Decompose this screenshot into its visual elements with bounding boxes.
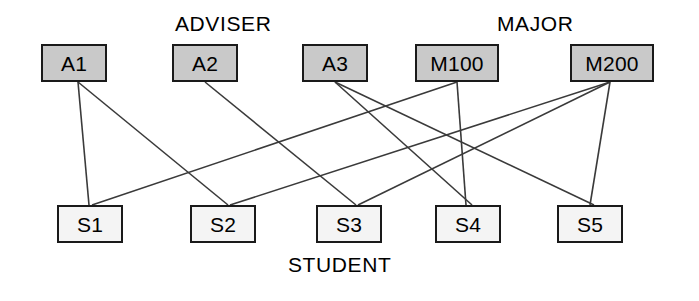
node-label: S2 <box>210 214 236 235</box>
group-label-student: STUDENT <box>288 253 391 277</box>
adviser-node-a3[interactable]: A3 <box>302 44 368 82</box>
node-label: A3 <box>322 53 348 74</box>
edge-a1-s1 <box>78 82 89 205</box>
node-label: M100 <box>430 53 483 74</box>
student-node-s2[interactable]: S2 <box>190 205 256 243</box>
node-label: S4 <box>455 214 481 235</box>
group-label-major: MAJOR <box>497 12 574 36</box>
major-node-m100[interactable]: M100 <box>415 44 499 82</box>
adviser-node-a2[interactable]: A2 <box>172 44 238 82</box>
node-label: S1 <box>77 214 103 235</box>
edge-m100-s1 <box>92 82 457 205</box>
edge-a1-s2 <box>78 82 228 205</box>
edge-m200-s3 <box>358 82 610 205</box>
edge-m200-s2 <box>230 82 610 205</box>
node-label: S3 <box>336 214 362 235</box>
edge-a2-s3 <box>205 82 356 205</box>
student-node-s1[interactable]: S1 <box>57 205 123 243</box>
student-node-s3[interactable]: S3 <box>316 205 382 243</box>
student-node-s4[interactable]: S4 <box>435 205 501 243</box>
major-node-m200[interactable]: M200 <box>570 44 654 82</box>
node-label: A1 <box>61 53 87 74</box>
node-label: A2 <box>192 53 218 74</box>
bipartite-diagram: ADVISER MAJOR STUDENT A1A2A3M100M200S1S2… <box>0 0 699 301</box>
adviser-node-a1[interactable]: A1 <box>41 44 107 82</box>
student-node-s5[interactable]: S5 <box>557 205 623 243</box>
edge-m200-s5 <box>590 82 610 205</box>
node-label: S5 <box>577 214 603 235</box>
group-label-adviser: ADVISER <box>175 12 271 36</box>
node-label: M200 <box>585 53 638 74</box>
